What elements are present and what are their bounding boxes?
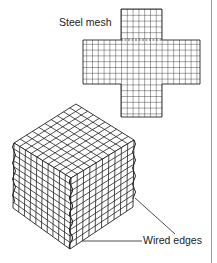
steel-mesh-label: Steel mesh [59, 16, 112, 28]
mesh-diagram [0, 0, 217, 263]
folded-mesh-cube [13, 104, 136, 249]
wired-edges-label: Wired edges [143, 234, 202, 246]
